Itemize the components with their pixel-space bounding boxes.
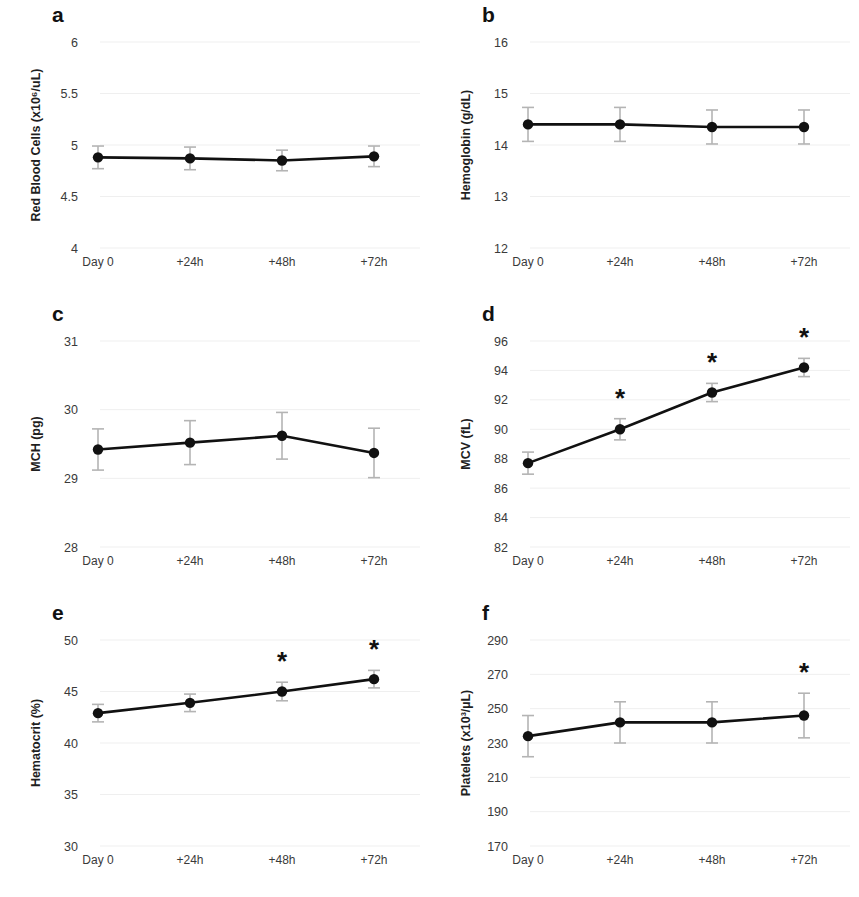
data-point-marker bbox=[277, 155, 287, 165]
x-axis-tick-label: +72h bbox=[360, 255, 387, 269]
data-point-marker bbox=[185, 698, 195, 708]
y-axis-tick-label: 84 bbox=[494, 511, 508, 525]
data-point-marker bbox=[615, 119, 625, 129]
y-axis-tick-label: 6 bbox=[71, 36, 78, 50]
data-point-marker bbox=[707, 717, 717, 727]
y-axis-tick-label: 90 bbox=[494, 423, 508, 437]
x-axis-tick-label: +72h bbox=[790, 853, 817, 867]
data-point-marker bbox=[799, 122, 809, 132]
x-axis-tick-label: +24h bbox=[176, 853, 203, 867]
panel-c: c 31302928MCH (pg)Day 0+24h+48h+72h bbox=[0, 299, 429, 598]
data-point-marker bbox=[615, 424, 625, 434]
x-axis-tick-label: +72h bbox=[790, 554, 817, 568]
y-axis-title: MCH (pg) bbox=[29, 416, 43, 472]
x-axis-tick-label: +48h bbox=[268, 255, 295, 269]
x-axis-tick-label: Day 0 bbox=[82, 554, 114, 568]
x-axis-tick-label: +48h bbox=[268, 554, 295, 568]
y-axis-tick-label: 230 bbox=[487, 737, 508, 751]
significance-asterisk: * bbox=[615, 383, 626, 413]
x-axis-tick-label: Day 0 bbox=[82, 853, 114, 867]
panel-f-plot: 290270250230210190170Platelets (x10³/µL)… bbox=[430, 598, 859, 897]
y-axis-tick-label: 82 bbox=[494, 541, 508, 555]
x-axis-tick-label: +48h bbox=[698, 255, 725, 269]
y-axis-tick-label: 270 bbox=[487, 668, 508, 682]
data-point-marker bbox=[523, 119, 533, 129]
y-axis-tick-label: 190 bbox=[487, 805, 508, 819]
y-axis-tick-label: 170 bbox=[487, 840, 508, 854]
y-axis-title: Platelets (x10³/µL) bbox=[459, 690, 473, 797]
y-axis-tick-label: 96 bbox=[494, 335, 508, 349]
y-axis-tick-label: 45 bbox=[64, 685, 78, 699]
panel-a: a 65.554.54Red Blood Cells (x10⁶/uL)Day … bbox=[0, 0, 429, 299]
y-axis-title: Red Blood Cells (x10⁶/uL) bbox=[29, 69, 43, 222]
data-point-marker bbox=[185, 153, 195, 163]
x-axis-tick-label: Day 0 bbox=[512, 255, 544, 269]
significance-asterisk: * bbox=[707, 347, 718, 377]
x-axis-tick-label: +24h bbox=[606, 554, 633, 568]
data-series-line bbox=[98, 679, 374, 713]
data-point-marker bbox=[799, 710, 809, 720]
panel-d: d 9694929088868482MCV (fL)Day 0+24h+48h+… bbox=[430, 299, 859, 598]
y-axis-tick-label: 29 bbox=[64, 472, 78, 486]
figure-canvas: a 65.554.54Red Blood Cells (x10⁶/uL)Day … bbox=[0, 0, 859, 897]
y-axis-tick-label: 14 bbox=[494, 139, 508, 153]
y-axis-tick-label: 12 bbox=[494, 242, 508, 256]
panel-e: e 5045403530Hematocrit (%)Day 0+24h+48h+… bbox=[0, 598, 429, 897]
y-axis-title: MCV (fL) bbox=[459, 418, 473, 469]
data-point-marker bbox=[799, 362, 809, 372]
data-point-marker bbox=[707, 122, 717, 132]
y-axis-tick-label: 5 bbox=[71, 139, 78, 153]
data-point-marker bbox=[277, 431, 287, 441]
y-axis-tick-label: 30 bbox=[64, 840, 78, 854]
x-axis-tick-label: +72h bbox=[360, 853, 387, 867]
y-axis-tick-label: 92 bbox=[494, 393, 508, 407]
x-axis-tick-label: Day 0 bbox=[512, 853, 544, 867]
x-axis-tick-label: +72h bbox=[360, 554, 387, 568]
y-axis-tick-label: 50 bbox=[64, 634, 78, 648]
data-point-marker bbox=[277, 686, 287, 696]
x-axis-tick-label: +48h bbox=[698, 853, 725, 867]
x-axis-tick-label: +72h bbox=[790, 255, 817, 269]
data-point-marker bbox=[93, 152, 103, 162]
data-point-marker bbox=[369, 151, 379, 161]
y-axis-tick-label: 40 bbox=[64, 737, 78, 751]
x-axis-tick-label: +24h bbox=[176, 255, 203, 269]
panel-d-plot: 9694929088868482MCV (fL)Day 0+24h+48h+72… bbox=[430, 299, 859, 598]
y-axis-tick-label: 88 bbox=[494, 452, 508, 466]
significance-asterisk: * bbox=[799, 657, 810, 687]
panel-f: f 290270250230210190170Platelets (x10³/µ… bbox=[430, 598, 859, 897]
panel-c-plot: 31302928MCH (pg)Day 0+24h+48h+72h bbox=[0, 299, 429, 598]
data-point-marker bbox=[707, 387, 717, 397]
data-series-line bbox=[98, 156, 374, 160]
y-axis-tick-label: 290 bbox=[487, 634, 508, 648]
y-axis-tick-label: 86 bbox=[494, 482, 508, 496]
x-axis-tick-label: Day 0 bbox=[512, 554, 544, 568]
y-axis-tick-label: 16 bbox=[494, 36, 508, 50]
panel-b: b 1615141312Hemoglobin (g/dL)Day 0+24h+4… bbox=[430, 0, 859, 299]
y-axis-tick-label: 94 bbox=[494, 364, 508, 378]
y-axis-tick-label: 5.5 bbox=[61, 87, 78, 101]
y-axis-tick-label: 250 bbox=[487, 702, 508, 716]
data-point-marker bbox=[615, 717, 625, 727]
data-point-marker bbox=[93, 444, 103, 454]
data-series-line bbox=[528, 367, 804, 463]
significance-asterisk: * bbox=[799, 322, 810, 352]
significance-asterisk: * bbox=[369, 634, 380, 664]
y-axis-tick-label: 31 bbox=[64, 335, 78, 349]
x-axis-tick-label: +24h bbox=[606, 255, 633, 269]
data-point-marker bbox=[523, 731, 533, 741]
x-axis-tick-label: +24h bbox=[606, 853, 633, 867]
x-axis-tick-label: Day 0 bbox=[82, 255, 114, 269]
data-series-line bbox=[98, 436, 374, 453]
panel-a-plot: 65.554.54Red Blood Cells (x10⁶/uL)Day 0+… bbox=[0, 0, 429, 299]
significance-asterisk: * bbox=[277, 646, 288, 676]
y-axis-tick-label: 4.5 bbox=[61, 190, 78, 204]
panel-b-plot: 1615141312Hemoglobin (g/dL)Day 0+24h+48h… bbox=[430, 0, 859, 299]
data-point-marker bbox=[369, 448, 379, 458]
y-axis-title: Hemoglobin (g/dL) bbox=[459, 90, 473, 200]
y-axis-title: Hematocrit (%) bbox=[29, 699, 43, 787]
data-point-marker bbox=[369, 674, 379, 684]
data-series-line bbox=[528, 716, 804, 737]
x-axis-tick-label: +48h bbox=[698, 554, 725, 568]
x-axis-tick-label: +48h bbox=[268, 853, 295, 867]
